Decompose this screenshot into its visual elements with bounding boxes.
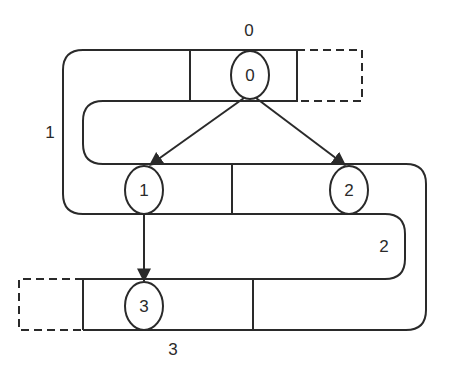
node-2: 2 <box>330 166 368 214</box>
node-3-label: 3 <box>139 297 148 316</box>
band-label-bottom: 3 <box>168 340 177 359</box>
node-2-label: 2 <box>344 181 353 200</box>
serpentine-diagram: 0 1 2 3 0 1 2 3 <box>0 0 449 371</box>
row-3-dashed-extension <box>19 279 83 330</box>
node-3: 3 <box>125 282 163 330</box>
band-label-left: 1 <box>45 123 54 142</box>
edge-0-2 <box>256 98 345 165</box>
band-label-right: 2 <box>379 237 388 256</box>
row-0-dashed-extension <box>297 50 362 101</box>
node-0-label: 0 <box>245 66 254 85</box>
node-0: 0 <box>231 51 269 99</box>
node-1: 1 <box>125 166 163 214</box>
band-label-top: 0 <box>244 21 253 40</box>
node-1-label: 1 <box>139 181 148 200</box>
edge-0-1 <box>150 98 244 165</box>
